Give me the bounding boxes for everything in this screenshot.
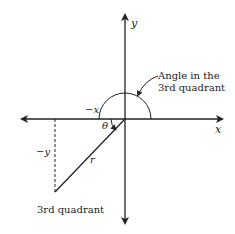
annotation-line-2: 3rd quadrant bbox=[158, 82, 225, 93]
theta-arc bbox=[111, 119, 115, 129]
y-axis-label: y bbox=[130, 17, 138, 30]
annotation-line-1: Angle in the bbox=[157, 70, 220, 81]
neg-y-label: −y bbox=[36, 146, 50, 157]
x-axis-label: x bbox=[215, 123, 222, 136]
quadrant-label: 3rd quadrant bbox=[37, 204, 104, 215]
neg-x-label: −x bbox=[85, 104, 99, 115]
radius-label: r bbox=[90, 154, 96, 165]
quadrant-diagram: y x −x −y r θ Angle in the 3rd quadrant … bbox=[0, 0, 235, 234]
theta-label: θ bbox=[102, 120, 108, 131]
annotation-leader-arrow bbox=[138, 76, 158, 95]
